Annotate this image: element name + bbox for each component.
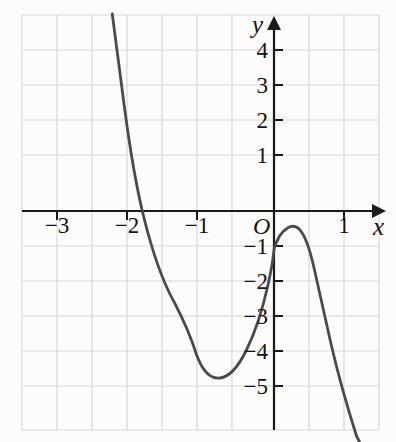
x-tick-label-neg3: −3 [33, 214, 81, 237]
y-tick-label-2: 2 [230, 109, 268, 132]
y-axis-ticks [274, 50, 283, 386]
y-tick-label-neg4: −4 [222, 340, 268, 363]
y-tick-label-neg5: −5 [222, 375, 268, 398]
y-tick-label-3: 3 [230, 74, 268, 97]
x-tick-label-neg1: −1 [173, 214, 221, 237]
x-tick-label-pos1: 1 [332, 214, 356, 237]
graph-figure: −3 −2 −1 1 4 3 2 1 −1 −2 −3 −4 −5 O y x [0, 0, 396, 442]
y-tick-label-neg2: −2 [222, 270, 268, 293]
y-tick-label-4: 4 [230, 39, 268, 62]
y-tick-label-1: 1 [230, 144, 268, 167]
y-tick-label-neg3: −3 [222, 305, 268, 328]
origin-label: O [253, 214, 270, 238]
x-tick-label-neg2: −2 [103, 214, 151, 237]
x-axis-label: x [373, 214, 384, 239]
y-axis-label: y [252, 12, 263, 37]
y-axis-arrowhead [267, 16, 281, 30]
